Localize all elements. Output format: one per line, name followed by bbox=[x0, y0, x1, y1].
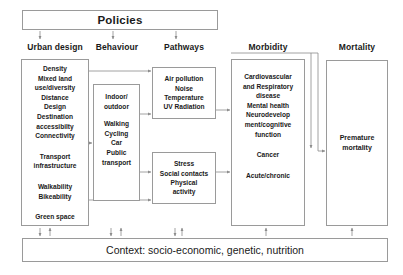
urban-design-group-transport: Transportinfrastructure bbox=[22, 152, 88, 171]
mortality-box: Prematuremortality bbox=[326, 60, 388, 226]
column-header-pathways: Pathways bbox=[148, 42, 220, 52]
urban-design-box: DensityMixed landuse/diversityDistanceDe… bbox=[21, 59, 89, 226]
policies-label: Policies bbox=[97, 14, 142, 26]
morbidity-group-cancer: Cancer bbox=[232, 150, 304, 160]
context-box: Context: socio-economic, genetic, nutrit… bbox=[22, 238, 388, 262]
mortality-label: Prematuremortality bbox=[327, 133, 387, 153]
morbidity-box: Cardiovascularand RespiratorydiseaseMent… bbox=[231, 59, 305, 226]
behaviour-box: Indoor/outdoor WalkingCyclingCarPublictr… bbox=[93, 84, 140, 201]
urban-design-group-green-space: Green space bbox=[22, 212, 88, 222]
urban-design-group-determinants: DensityMixed landuse/diversityDistanceDe… bbox=[22, 64, 88, 141]
morbidity-group-acute-chronic: Acute/chronic bbox=[232, 171, 304, 181]
pathways-environmental-list: Air pollutionNoiseTemperatureUV Radiatio… bbox=[163, 74, 204, 112]
behaviour-group-travel-mode: WalkingCyclingCarPublictransport bbox=[94, 119, 139, 167]
behaviour-group-indoor-outdoor: Indoor/outdoor bbox=[94, 92, 139, 111]
morbidity-group-chronic-disease: Cardiovascularand RespiratorydiseaseMent… bbox=[232, 72, 304, 139]
framework-diagram: Policies Urban design Behaviour Pathways… bbox=[0, 0, 403, 275]
pathways-psychosocial-box: StressSocial contactsPhysicalactivity bbox=[152, 152, 216, 204]
column-header-mortality: Mortality bbox=[320, 42, 394, 52]
column-header-morbidity: Morbidity bbox=[228, 42, 308, 52]
pathways-environmental-box: Air pollutionNoiseTemperatureUV Radiatio… bbox=[152, 67, 216, 119]
urban-design-group-walkability: WalkabilityBikeability bbox=[22, 182, 88, 201]
context-label: Context: socio-economic, genetic, nutrit… bbox=[106, 244, 304, 256]
column-header-behaviour: Behaviour bbox=[84, 42, 150, 52]
pathways-psychosocial-list: StressSocial contactsPhysicalactivity bbox=[160, 159, 208, 197]
policies-box: Policies bbox=[22, 10, 218, 30]
